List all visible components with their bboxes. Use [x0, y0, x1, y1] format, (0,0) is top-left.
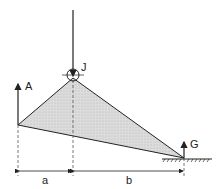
triangle-plate [18, 78, 184, 158]
label-g: G [190, 138, 199, 150]
label-j: J [81, 61, 87, 73]
diagram-canvas: J A G a b [0, 0, 224, 189]
label-dim-a: a [42, 174, 49, 186]
ground-support-icon [162, 159, 212, 162]
label-dim-b: b [126, 174, 132, 186]
label-a-reaction: A [25, 80, 33, 92]
